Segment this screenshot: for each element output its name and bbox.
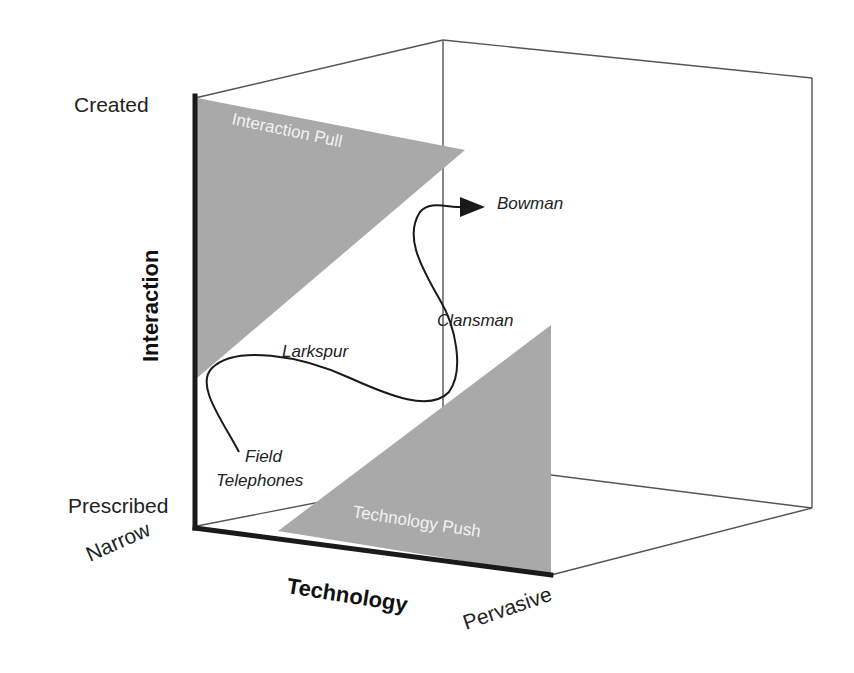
floor-front-right-edge <box>551 508 812 575</box>
pervasive-label: Pervasive <box>460 582 555 634</box>
back-top-left-edge <box>195 40 443 98</box>
floor-back-right-edge <box>551 475 812 508</box>
field-telephones-label-line1: Field <box>245 447 282 466</box>
back-top-right-edge <box>443 40 812 78</box>
cube-diagram: Created Prescribed Narrow Pervasive Inte… <box>0 0 854 673</box>
arrowhead-icon <box>460 197 485 217</box>
larkspur-label: Larkspur <box>282 342 349 361</box>
diagram-canvas: Created Prescribed Narrow Pervasive Inte… <box>0 0 854 673</box>
narrow-label: Narrow <box>82 517 154 566</box>
field-telephones-label-line2: Telephones <box>216 471 304 490</box>
bowman-label: Bowman <box>497 194 563 213</box>
created-label: Created <box>74 93 149 116</box>
interaction-axis-title: Interaction <box>138 250 163 362</box>
technology-push-region <box>278 325 551 575</box>
clansman-label: Clansman <box>437 311 514 330</box>
technology-axis-title: Technology <box>285 573 410 617</box>
prescribed-label: Prescribed <box>68 494 168 517</box>
